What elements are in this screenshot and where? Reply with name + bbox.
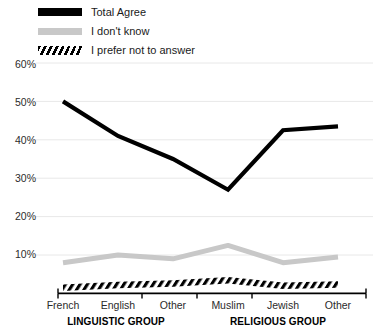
series-line-prefer-not-to-answer — [63, 277, 338, 291]
group-label-religious: RELIGIOUS GROUP — [198, 316, 358, 327]
plot-area — [0, 0, 373, 332]
x-tick-label-other-religious: Other — [303, 299, 373, 311]
y-tick-label-40: 40% — [2, 134, 36, 146]
y-tick-label-20: 20% — [2, 210, 36, 222]
y-tick-label-10: 10% — [2, 248, 36, 260]
chart-container: Total Agree I don't know I prefer not to… — [0, 0, 373, 332]
y-tick-label-60: 60% — [2, 58, 36, 70]
series-line-dont-know — [63, 245, 338, 262]
series-line-total-agree — [63, 101, 338, 189]
group-label-linguistic: LINGUISTIC GROUP — [36, 316, 196, 327]
y-tick-label-50: 50% — [2, 96, 36, 108]
y-tick-label-30: 30% — [2, 172, 36, 184]
gridlines — [36, 63, 373, 255]
